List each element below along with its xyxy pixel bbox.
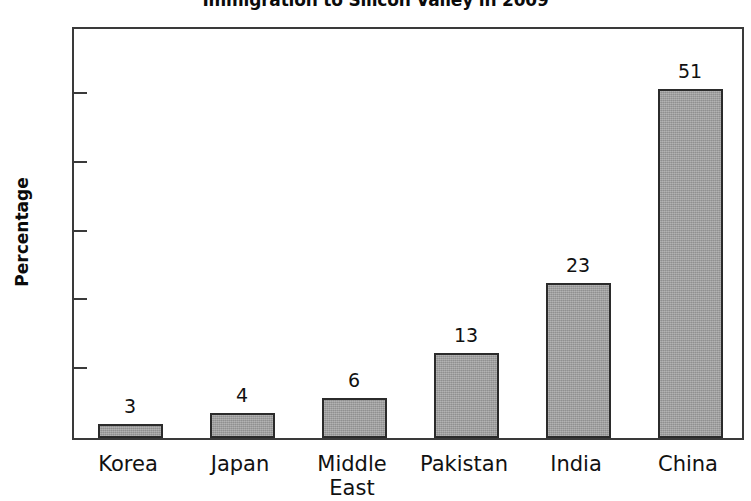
bar <box>546 283 611 438</box>
y-axis-tick <box>74 367 87 369</box>
bar <box>322 398 387 438</box>
chart-title: Immigration to Silicon Valley in 2009 <box>0 0 751 10</box>
bar <box>658 89 723 438</box>
bar <box>210 413 275 438</box>
y-axis-tick <box>74 230 87 232</box>
bar-value-label: 6 <box>322 371 387 390</box>
bar-value-label: 3 <box>98 397 163 416</box>
plot-area: 0102030405060346132351 <box>74 29 742 438</box>
y-axis-tick <box>74 161 87 163</box>
y-axis-tick <box>74 298 87 300</box>
bar-value-label: 13 <box>434 326 499 345</box>
y-axis-tick <box>74 92 87 94</box>
bar-value-label: 4 <box>210 386 275 405</box>
bar <box>98 424 163 438</box>
bar <box>434 353 499 438</box>
bar-value-label: 23 <box>546 256 611 275</box>
x-axis-category-label: China <box>612 452 751 476</box>
plot-frame: 0102030405060346132351 <box>72 27 744 440</box>
bar-value-label: 51 <box>658 62 723 81</box>
y-axis-label: Percentage <box>12 172 32 292</box>
bar-chart: Immigration to Silicon Valley in 2009 Pe… <box>0 0 751 501</box>
